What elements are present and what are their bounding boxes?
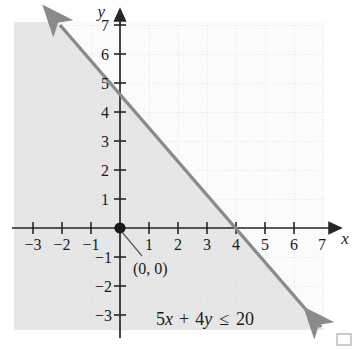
inequality-constant: 20	[236, 309, 254, 329]
inequality-graph-figure: −3 −2 −1 1 2 3 4 5 6 7 1 2 3 4 5 6 7 −1 …	[0, 0, 358, 349]
y-tick-label-3: 3	[101, 133, 109, 150]
x-tick-label-7: 7	[318, 236, 326, 253]
inequality-plus: +	[179, 309, 189, 329]
coordinate-plane-svg: −3 −2 −1 1 2 3 4 5 6 7 1 2 3 4 5 6 7 −1 …	[0, 0, 358, 349]
x-tick-label-2: 2	[174, 236, 182, 253]
y-tick-label-1: 1	[101, 191, 109, 208]
x-tick-label-1: 1	[145, 236, 153, 253]
x-tick-label-6: 6	[290, 236, 298, 253]
y-axis-label: y	[95, 2, 105, 21]
x-tick-label-4: 4	[232, 236, 240, 253]
y-tick-label--3: −3	[95, 307, 112, 324]
y-tick-label-6: 6	[101, 46, 109, 63]
inequality-var-x: x	[164, 309, 173, 329]
x-tick-label-5: 5	[261, 236, 269, 253]
inequality-coef-x: 5	[156, 309, 165, 329]
y-tick-label--1: −1	[95, 249, 112, 266]
y-tick-label--2: −2	[95, 278, 112, 295]
y-tick-label-5: 5	[101, 75, 109, 92]
x-axis-label: x	[340, 229, 349, 248]
inequality-relation: ≤	[219, 309, 229, 329]
inequality-label: 5x+4y≤20	[156, 309, 254, 329]
test-point-dot	[114, 222, 125, 233]
grid-lines	[14, 22, 324, 330]
y-tick-label-4: 4	[101, 104, 109, 121]
x-tick-label--3: −3	[24, 236, 41, 253]
test-point-label: (0, 0)	[133, 260, 168, 278]
inequality-coef-y: 4	[195, 309, 204, 329]
x-tick-label-3: 3	[203, 236, 211, 253]
inequality-var-y: y	[202, 309, 212, 329]
page-corner-artifact	[337, 334, 351, 345]
x-tick-label--2: −2	[53, 236, 70, 253]
y-tick-label-2: 2	[101, 162, 109, 179]
